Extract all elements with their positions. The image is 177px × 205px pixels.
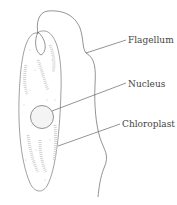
label-nucleus: Nucleus [128,80,165,89]
nucleus [31,106,54,129]
label-chloroplast: Chloroplast [122,120,175,129]
flagellum-leader [86,40,126,53]
chloroplast-leader [58,124,120,146]
reservoir [36,32,46,55]
label-flagellum: Flagellum [128,36,174,45]
flagellum [37,11,106,197]
nucleus-leader [52,83,126,111]
euglena-diagram [0,0,177,205]
